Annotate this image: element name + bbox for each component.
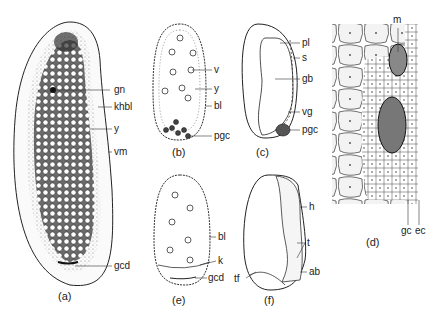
label-vm: vm	[114, 147, 127, 157]
label-k: k	[218, 256, 223, 266]
label-y-b: y	[214, 84, 219, 94]
caption-a: (a)	[58, 290, 71, 302]
caption-e: (e)	[172, 294, 185, 306]
label-y: y	[114, 124, 119, 134]
caption-f: (f)	[264, 294, 274, 306]
label-gn: gn	[114, 85, 125, 95]
label-khbl: khbl	[114, 102, 132, 112]
caption-d: (d)	[366, 236, 379, 248]
label-gc: gc	[401, 226, 412, 236]
label-gcd: gcd	[114, 261, 130, 271]
label-t: t	[307, 238, 310, 248]
label-v: v	[214, 65, 219, 75]
panel-a-embryo	[14, 22, 113, 286]
caption-b: (b)	[172, 146, 185, 158]
label-tf: tf	[234, 274, 240, 284]
label-ec: ec	[415, 226, 426, 236]
label-pgc: pgc	[214, 131, 230, 141]
panel-d-section	[332, 24, 419, 225]
label-ab: ab	[309, 267, 320, 277]
panel-b-embryo	[153, 24, 212, 140]
label-bl: bl	[214, 101, 222, 111]
panel-e-embryo	[154, 175, 216, 285]
panel-c-embryo	[242, 24, 300, 138]
label-vg: vg	[302, 107, 313, 117]
label-s: s	[302, 53, 307, 63]
label-pgc-c: pgc	[302, 125, 318, 135]
panel-f-embryo	[244, 175, 307, 290]
label-pl: pl	[302, 38, 310, 48]
label-bl-e: bl	[218, 232, 226, 242]
label-m: m	[393, 15, 401, 25]
label-h: h	[309, 202, 315, 212]
label-gcd-e: gcd	[208, 273, 224, 283]
label-gb: gb	[302, 74, 313, 84]
caption-c: (c)	[256, 146, 269, 158]
